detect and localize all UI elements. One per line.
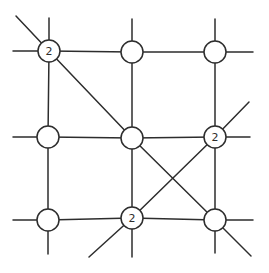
graph-edge-top-left--center bbox=[49, 51, 132, 138]
graph-edge-middle-left--center bbox=[48, 137, 132, 138]
graph-edge-bottom-middle--bottom-right bbox=[132, 218, 215, 220]
node-label-top-left: 2 bbox=[46, 45, 53, 58]
graph-edge-center--middle-right bbox=[132, 137, 215, 138]
graph-edge-middle-right--bottom-middle bbox=[132, 137, 215, 218]
graph-node-top-right bbox=[204, 41, 226, 63]
graph-canvas: 222 bbox=[0, 0, 269, 273]
graph-edge-top-left--top-middle bbox=[49, 51, 132, 52]
graph-node-bottom-left bbox=[37, 209, 59, 231]
graph-edge-top-left--middle-left bbox=[48, 51, 49, 137]
node-label-bottom-middle: 2 bbox=[129, 212, 136, 225]
node-label-middle-right: 2 bbox=[212, 131, 219, 144]
graph-node-bottom-right bbox=[204, 209, 226, 231]
graph-node-middle-left bbox=[37, 126, 59, 148]
graph-edge-bottom-left--bottom-middle bbox=[48, 218, 132, 220]
graph-node-top-middle bbox=[121, 41, 143, 63]
graph-edge-center--bottom-right bbox=[132, 138, 215, 220]
graph-node-center bbox=[121, 127, 143, 149]
grid-graph-figure: 222 bbox=[0, 0, 269, 273]
